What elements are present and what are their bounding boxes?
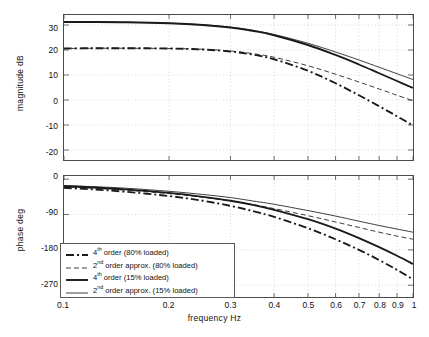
magnitude-plot-axes	[63, 14, 414, 161]
x-tick-label-0-5: 0.5	[293, 300, 323, 310]
series-line-2	[64, 48, 413, 101]
legend-label-4: 2nd order approx. (15% loaded)	[93, 285, 198, 297]
x-tick-label-0-2: 0.2	[154, 300, 184, 310]
legend-line-sample-3	[65, 272, 89, 284]
phase-ytick-0: 0	[18, 171, 58, 181]
legend-item-4: 2nd order approx. (15% loaded)	[65, 285, 230, 298]
phase-ytick-minus90: -90	[18, 207, 58, 217]
phase-ytick-minus180: -180	[18, 243, 58, 253]
series-line-4	[64, 185, 413, 232]
bode-plot-figure: magnitude dB 30 20 10 0 -10 -20 phase de…	[0, 0, 429, 337]
legend-label-1: 4th order (80% loaded)	[93, 247, 169, 259]
magnitude-ytick-minus20: -20	[18, 147, 58, 157]
legend-item-2: 2nd order approx. (80% loaded)	[65, 260, 230, 273]
series-line-3	[64, 22, 413, 88]
magnitude-ytick-10: 10	[18, 70, 58, 80]
series-line-2	[64, 187, 413, 239]
x-tick-label-0-4: 0.4	[259, 300, 289, 310]
x-tick-label-1: 1	[399, 300, 429, 310]
legend-label-2: 2nd order approx. (80% loaded)	[93, 260, 198, 272]
legend-line-sample-1	[65, 247, 89, 259]
magnitude-ytick-20: 20	[18, 45, 58, 55]
phase-axis-label: phase deg	[15, 190, 25, 270]
legend-line-sample-4	[65, 285, 89, 297]
frequency-axis-label: frequency Hz	[0, 313, 429, 323]
series-line-4	[64, 22, 413, 80]
phase-ytick-minus270: -270	[18, 279, 58, 289]
magnitude-plot-canvas	[64, 15, 413, 160]
legend-item-1: 4th order (80% loaded)	[65, 247, 230, 260]
legend-label-3: 4th order (15% loaded)	[93, 272, 169, 284]
chart-legend: 4th order (80% loaded)2nd order approx. …	[60, 243, 235, 298]
magnitude-ytick-minus10: -10	[18, 121, 58, 131]
series-line-1	[64, 48, 413, 125]
x-tick-label-0-3: 0.3	[215, 300, 245, 310]
magnitude-ytick-30: 30	[18, 23, 58, 33]
legend-item-3: 4th order (15% loaded)	[65, 272, 230, 285]
legend-line-sample-2	[65, 260, 89, 272]
magnitude-ytick-0: 0	[18, 96, 58, 106]
x-tick-label-0-1: 0.1	[48, 300, 78, 310]
